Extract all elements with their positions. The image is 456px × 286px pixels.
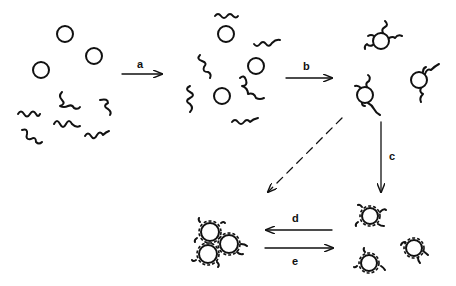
arrow-label-b: b <box>303 60 310 72</box>
particle-with-chains <box>411 64 439 102</box>
arrow-dashed <box>268 118 342 192</box>
stage-4-coated-particles <box>354 205 428 273</box>
arrow-c: c <box>381 122 395 192</box>
particle <box>248 58 264 74</box>
coated-particle <box>401 238 428 263</box>
stage-3-partial-adsorption <box>355 21 439 115</box>
particle <box>214 88 230 104</box>
arrow-label-e: e <box>292 255 298 267</box>
stage-1-separate-components <box>18 26 111 144</box>
arrow-label-c: c <box>389 150 395 162</box>
coated-particle <box>356 205 386 226</box>
arrow-e: e <box>265 248 333 267</box>
stage-5-aggregate <box>192 218 247 267</box>
particle <box>33 62 49 78</box>
particle-with-chains <box>365 21 402 49</box>
polymer-chains <box>18 92 111 144</box>
coated-particle <box>354 248 385 273</box>
arrow-label-d: d <box>292 212 299 224</box>
particle <box>86 48 102 64</box>
particle <box>57 26 73 42</box>
arrow-b: b <box>286 60 332 78</box>
reaction-scheme-diagram: a b <box>0 0 456 286</box>
particle-with-chains <box>355 75 380 115</box>
arrow-d: d <box>266 212 332 230</box>
arrow-a: a <box>122 58 162 74</box>
particle <box>218 26 234 42</box>
stage-2-mixed <box>187 14 280 124</box>
arrow-label-a: a <box>137 58 144 70</box>
